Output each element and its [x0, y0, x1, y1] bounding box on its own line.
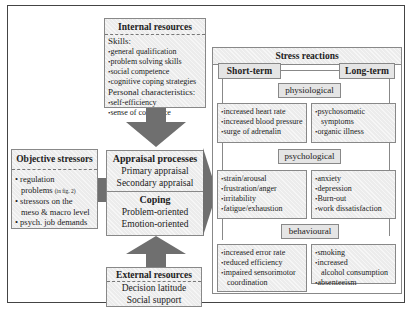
down-arrow-icon	[124, 108, 188, 148]
list-item: irritability	[221, 194, 303, 204]
list-item-cont: coordination	[221, 278, 303, 288]
list-item: increased error rate	[221, 248, 303, 258]
social-support: Social support	[107, 294, 201, 306]
objective-stressors-box: Objective stressors • regulation problem…	[11, 149, 98, 229]
appraisal-coping-box: Appraisal processes Primary appraisal Se…	[106, 150, 204, 236]
appraisal-title: Appraisal processes	[107, 153, 203, 165]
fig-note: (in fig. 2)	[55, 188, 76, 194]
objective-stressors-title: Objective stressors	[12, 150, 97, 170]
list-item: fatigue/exhaustion	[221, 204, 303, 214]
list-item: absenteeism	[315, 278, 392, 288]
list-item: social competence	[108, 67, 205, 77]
category-behavioural: behavioural	[281, 224, 339, 239]
list-item: psychosomatic	[315, 107, 392, 117]
skills-list: general qualification problem solving sk…	[105, 47, 205, 87]
personal-characteristics-label: Personal characteristics:	[105, 87, 205, 98]
list-item: reduced efficiency	[221, 258, 303, 268]
appraisal-section: Appraisal processes Primary appraisal Se…	[107, 151, 203, 192]
category-psychological: psychological	[278, 149, 341, 164]
list-item: smoking	[315, 248, 392, 258]
physiological-long-box: psychosomatic symptoms organic illness	[311, 103, 396, 143]
coping-section: Coping Problem-oriented Emotion-oriented	[107, 192, 203, 230]
internal-resources-title: Internal resources	[105, 19, 205, 35]
list-item: self-efficiency	[108, 98, 205, 108]
decision-latitude: Decision latitude	[107, 282, 201, 294]
list-item: increased	[315, 258, 392, 268]
list-item: anxiety	[315, 174, 392, 184]
internal-resources-box: Internal resources Skills: general quali…	[104, 18, 206, 108]
skills-label: Skills:	[105, 36, 205, 47]
external-resources-title: External resources	[107, 268, 201, 282]
connector-line	[280, 70, 340, 71]
behavioural-long-box: smoking increased alcohol consumption ab…	[311, 244, 396, 284]
list-item: work dissatisfaction	[315, 204, 392, 214]
list-item: increased blood pressure	[221, 117, 303, 127]
list-item: frustration/anger	[221, 184, 303, 194]
list-item: cognitive coping strategies	[108, 77, 205, 87]
behavioural-short-box: increased error rate reduced efficiency …	[217, 244, 307, 292]
category-physiological: physiological	[278, 83, 341, 98]
physiological-short-box: increased heart rate increased blood pre…	[217, 103, 307, 143]
emotion-oriented: Emotion-oriented	[107, 218, 203, 230]
psychological-long-box: anxiety depression Burn-out work dissati…	[311, 170, 396, 219]
list-item: organic illness	[315, 127, 392, 137]
list-item: surge of adrenalin	[221, 127, 303, 137]
list-item: strain/arousal	[221, 174, 303, 184]
right-arrow-stub-icon	[98, 178, 106, 202]
coping-title: Coping	[107, 194, 203, 206]
list-item: Burn-out	[315, 194, 392, 204]
psychological-short-box: strain/arousal frustration/anger irritab…	[217, 170, 307, 219]
list-item: depression	[315, 184, 392, 194]
list-item: impaired sensorimotor	[221, 268, 303, 278]
list-item-cont: alcohol consumption	[315, 268, 392, 278]
list-item: increased heart rate	[221, 107, 303, 117]
primary-appraisal: Primary appraisal	[107, 165, 203, 177]
secondary-appraisal: Secondary appraisal	[107, 177, 203, 189]
list-item: general qualification	[108, 47, 205, 57]
list-item: problem solving skills	[108, 57, 205, 67]
problem-oriented: Problem-oriented	[107, 206, 203, 218]
external-resources-box: External resources Decision latitude Soc…	[106, 267, 202, 307]
list-item-cont: problems (in fig. 2)	[15, 185, 94, 197]
list-item-cont: meso & macro level	[15, 207, 94, 218]
short-term-tag: Short-term	[218, 63, 281, 79]
list-item-cont: symptoms	[315, 117, 392, 127]
long-term-tag: Long-term	[339, 63, 395, 79]
list-item: • psych. job demands	[15, 217, 94, 228]
list-item: • regulation	[15, 174, 94, 185]
up-arrow-icon	[124, 236, 188, 268]
list-item: • stressors on the	[15, 196, 94, 207]
